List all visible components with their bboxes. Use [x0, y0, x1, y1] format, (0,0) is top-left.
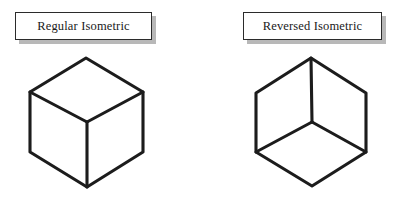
reversed-cube-edge-center-to-lower-right — [312, 122, 366, 152]
regular-cube-left-face — [30, 92, 87, 187]
reversed-cube-body-face — [256, 93, 366, 186]
regular-cube-right-face — [87, 92, 143, 187]
reversed-cube-edge-center-to-top — [311, 58, 312, 122]
isometric-comparison-figure: Regular Isometric Reversed Isometric — [0, 0, 405, 204]
regular-cube-top-face — [30, 58, 143, 122]
cube-reversed-isometric — [256, 58, 366, 186]
regular-cube-edge-center-to-left — [30, 92, 87, 122]
regular-cube-edge-center-to-right — [87, 92, 143, 122]
label-box-reversed-isometric: Reversed Isometric — [243, 12, 382, 40]
label-text-reversed-isometric: Reversed Isometric — [263, 20, 363, 33]
label-box-regular-isometric: Regular Isometric — [15, 12, 152, 40]
reversed-cube-outline — [256, 58, 366, 186]
label-text-regular-isometric: Regular Isometric — [37, 20, 129, 33]
reversed-cube-upper-face — [256, 58, 366, 122]
regular-cube-outline — [30, 58, 143, 187]
cube-regular-isometric — [30, 58, 143, 187]
reversed-cube-edge-center-to-lower-left — [256, 122, 312, 152]
